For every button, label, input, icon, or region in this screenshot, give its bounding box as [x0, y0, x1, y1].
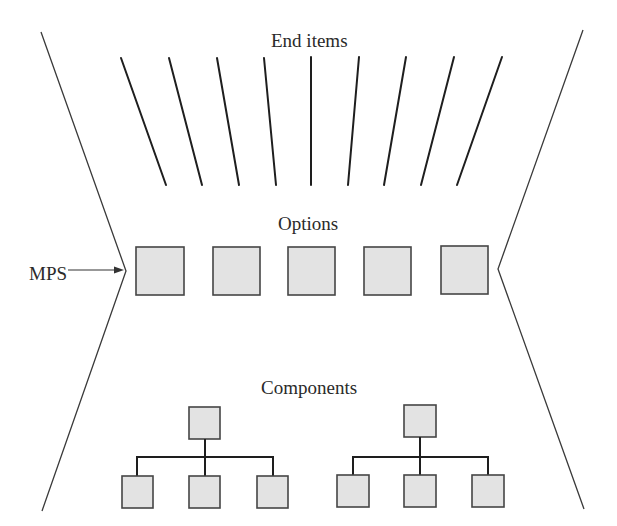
component-child-box — [472, 475, 504, 507]
end-item-line — [384, 57, 406, 185]
end-item-line — [121, 58, 166, 185]
end-item-line — [348, 57, 359, 185]
end-item-line — [217, 58, 239, 185]
component-child-box — [189, 476, 220, 508]
component-child-box — [122, 476, 153, 508]
components-label: Components — [261, 378, 357, 397]
mps-arrow — [68, 267, 124, 274]
option-box — [136, 247, 184, 295]
end-item-line — [421, 57, 454, 185]
end-item-line — [457, 57, 502, 185]
option-box — [288, 247, 335, 295]
end-item-lines — [121, 57, 502, 185]
option-box — [364, 247, 411, 295]
mps-hourglass-diagram: End items Options Components MPS — [0, 0, 617, 526]
hourglass-right-outline — [498, 30, 584, 509]
option-boxes — [136, 246, 488, 295]
component-tree-left — [122, 407, 288, 508]
component-child-box — [257, 476, 288, 508]
options-label: Options — [278, 214, 338, 233]
end-item-line — [169, 58, 202, 185]
diagram-canvas — [0, 0, 617, 526]
component-child-box — [337, 475, 369, 507]
option-box — [441, 246, 488, 294]
mps-label: MPS — [29, 264, 67, 283]
component-child-box — [404, 475, 436, 507]
end-items-label: End items — [271, 31, 348, 50]
component-parent-box — [404, 405, 436, 437]
option-box — [213, 247, 260, 295]
component-tree-right — [337, 405, 504, 507]
end-item-line — [264, 58, 276, 185]
component-parent-box — [189, 407, 220, 439]
